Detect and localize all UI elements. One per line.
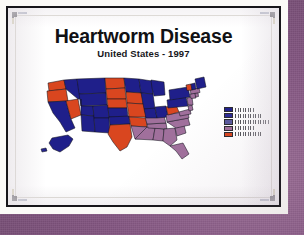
map-state-me [195, 77, 206, 89]
legend-label [235, 114, 262, 118]
map-state-nm [94, 118, 110, 133]
map-state-az [81, 115, 95, 132]
map-state-de [188, 105, 193, 111]
map-state-sd [106, 88, 126, 99]
map-state-mn [124, 78, 141, 93]
legend-item [224, 119, 272, 124]
legend-label [235, 132, 262, 136]
corner-ornament-icon [12, 187, 34, 201]
corner-ornament-icon [12, 12, 34, 26]
map-state-mt [77, 78, 106, 94]
map-state-tx [108, 124, 132, 151]
map-state-ia [126, 92, 143, 104]
legend-item [224, 113, 272, 118]
legend-item [224, 132, 272, 137]
legend-swatch [224, 132, 233, 137]
map-state-ar [129, 117, 147, 127]
slide-frame: Heartworm Disease United States - 1997 [6, 6, 281, 207]
legend-item [224, 126, 272, 131]
map-state-wy [79, 93, 107, 106]
legend-item [224, 107, 272, 112]
presentation-slide: Heartworm Disease United States - 1997 [8, 8, 279, 205]
scanned-paper: Heartworm Disease United States - 1997 [0, 0, 288, 214]
legend-label [235, 108, 255, 112]
map-state-ok [109, 116, 130, 125]
legend-swatch [224, 107, 233, 112]
map-state-ak [49, 135, 73, 152]
map-state-hi [41, 148, 47, 152]
map-state-ga [163, 128, 177, 146]
corner-ornament-icon [253, 187, 275, 201]
legend-swatch [224, 113, 233, 118]
map-state-ne [107, 99, 127, 108]
map-state-nh [191, 83, 196, 90]
map-state-fl [170, 143, 189, 159]
map-legend [224, 107, 272, 139]
corner-ornament-icon [253, 12, 275, 26]
legend-swatch [224, 126, 233, 131]
slide-subtitle: United States - 1997 [8, 48, 279, 59]
legend-label [235, 126, 255, 130]
map-state-or [47, 89, 68, 102]
map-state-in [144, 108, 157, 118]
map-state-co [93, 105, 109, 118]
us-map-svg [38, 76, 218, 166]
map-state-nd [105, 78, 125, 89]
map-state-al [153, 128, 164, 141]
legend-label [235, 120, 269, 124]
us-choropleth-map [38, 76, 218, 166]
legend-swatch [224, 119, 233, 124]
map-state-ks [108, 108, 128, 117]
slide-title: Heartworm Disease [8, 25, 279, 48]
